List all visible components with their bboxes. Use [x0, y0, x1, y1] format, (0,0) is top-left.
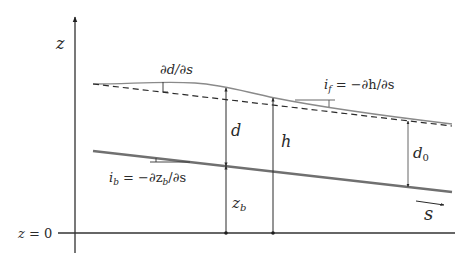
datum-label: z = 0	[17, 226, 52, 241]
dd-ds-marker	[163, 82, 168, 92]
d-zb-dimension	[224, 88, 228, 235]
open-channel-flow-diagram: z z = 0 ∂d/∂s if = −∂h/∂s ib = −∂zb/∂s d…	[0, 0, 470, 263]
if-label: if = −∂h/∂s	[324, 77, 394, 94]
ib-label: ib = −∂zb/∂s	[109, 170, 186, 187]
zb-label: zb	[231, 194, 246, 213]
h-dimension	[271, 98, 275, 235]
z-axis-label: z	[55, 34, 65, 53]
dd-ds-label: ∂d/∂s	[160, 62, 193, 77]
d-label: d	[231, 121, 241, 140]
s-label: s	[424, 203, 433, 224]
h-label: h	[281, 132, 291, 151]
d0-label: d0	[413, 144, 429, 163]
